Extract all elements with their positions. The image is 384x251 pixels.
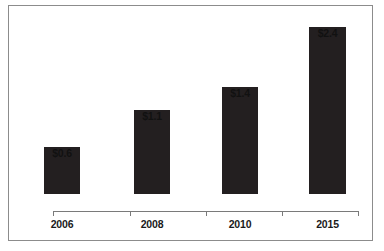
chart-frame: $0.6 $1.1 $1.4 $2.4 2006 2008 2010 2015 bbox=[8, 5, 373, 241]
x-tick-label-2008: 2008 bbox=[128, 218, 176, 230]
x-axis-tick bbox=[53, 212, 54, 216]
bar-2010 bbox=[222, 87, 258, 194]
x-axis-tick bbox=[206, 212, 207, 216]
value-label-2015: $2.4 bbox=[303, 27, 352, 39]
chart-screenshot: $0.6 $1.1 $1.4 $2.4 2006 2008 2010 2015 bbox=[0, 0, 384, 251]
x-axis-tick bbox=[130, 212, 131, 216]
bar-2008 bbox=[134, 110, 170, 194]
x-tick-label-2006: 2006 bbox=[38, 218, 86, 230]
bar-2015 bbox=[309, 27, 346, 194]
x-axis-tick bbox=[358, 212, 359, 216]
x-tick-label-2015: 2015 bbox=[303, 218, 352, 230]
x-tick-label-2010: 2010 bbox=[216, 218, 264, 230]
x-axis-tick bbox=[282, 212, 283, 216]
value-label-2006: $0.6 bbox=[38, 147, 86, 159]
plot-area: $0.6 $1.1 $1.4 $2.4 2006 2008 2010 2015 bbox=[9, 6, 372, 240]
value-label-2010: $1.4 bbox=[216, 87, 264, 99]
value-label-2008: $1.1 bbox=[128, 110, 176, 122]
